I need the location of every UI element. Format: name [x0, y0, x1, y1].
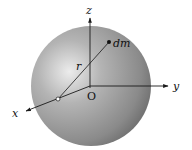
- radius-label: r: [76, 60, 82, 73]
- x-axis-label: x: [12, 107, 19, 120]
- y-axis-label: y: [172, 80, 180, 93]
- surface-point: [56, 97, 60, 101]
- z-axis-label: z: [85, 4, 92, 17]
- sphere-diagram: z y x r O dm: [0, 0, 192, 150]
- mass-element-label: dm: [113, 37, 130, 50]
- origin-label: O: [87, 90, 96, 103]
- mass-element-point: [107, 40, 111, 44]
